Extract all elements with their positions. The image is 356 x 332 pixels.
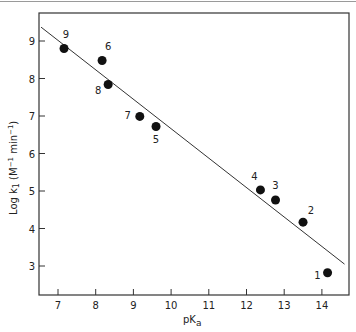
y-tick-label: 4 [29,224,35,235]
y-tick-label: 7 [29,111,35,122]
x-axis-label: pKa [183,314,201,328]
scatter-chart: 7891011121314 3456789 123456789 pKa Log … [0,0,356,332]
y-tick-label: 8 [29,74,35,85]
y-axis-ticks: 3456789 [29,36,45,272]
data-point [104,80,113,89]
data-point [323,268,332,277]
data-point-label: 7 [125,110,131,121]
data-point [135,112,144,121]
plot-frame [39,13,349,295]
x-tick-label: 11 [202,300,215,311]
x-tick-label: 14 [316,300,329,311]
x-tick-label: 7 [55,300,61,311]
y-tick-label: 3 [29,261,35,272]
x-tick-label: 8 [93,300,99,311]
data-point-label: 8 [95,85,101,96]
x-axis-ticks: 7891011121314 [55,289,328,311]
data-point [152,122,161,131]
data-point-label: 9 [63,29,69,40]
x-tick-label: 10 [165,300,178,311]
y-tick-label: 9 [29,36,35,47]
y-axis-label: Log k1 (M−1 min−1) [7,121,21,215]
regression-line [41,27,344,264]
data-point-label: 3 [272,180,278,191]
x-tick-label: 12 [240,300,253,311]
y-tick-label: 6 [29,149,35,160]
data-point-label: 5 [153,134,159,145]
data-point [98,56,107,65]
x-tick-label: 13 [278,300,291,311]
y-tick-label: 5 [29,186,35,197]
data-point-label: 1 [314,270,320,281]
data-point [60,44,69,53]
data-point-label: 4 [251,171,257,182]
data-points: 123456789 [60,29,333,281]
data-point [299,218,308,227]
data-point [256,185,265,194]
data-point [271,196,280,205]
data-point-label: 2 [308,205,314,216]
x-tick-label: 9 [130,300,136,311]
data-point-label: 6 [105,41,111,52]
